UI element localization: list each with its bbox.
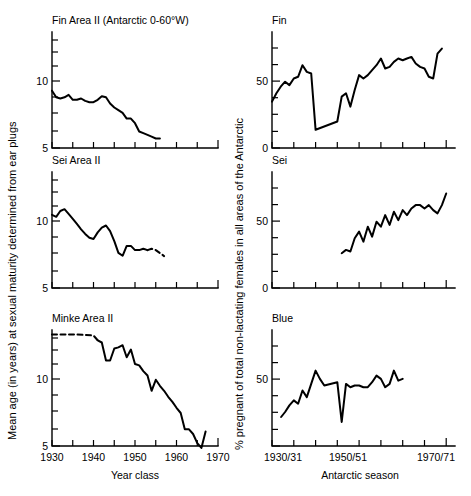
series-sei-age [52,209,148,256]
panel-minke-age-ytick-10: 10 [36,373,48,385]
panel-fin-pregnancy-title: Fin [272,14,287,26]
panel-blue-pregnancy-xtick-1950: 1950/51 [329,451,367,463]
panel-sei-age-x-ticks [52,280,218,288]
panel-sei-pregnancy: Sei 50 0 [256,154,455,294]
panel-blue-pregnancy-title: Blue [272,312,293,324]
panel-fin-pregnancy-ytick-0: 0 [262,142,268,154]
panel-sei-pregnancy-title: Sei [272,154,287,166]
panel-minke-age-title: Minke Area II [52,312,113,324]
right-y-axis-title: % pregnant of total non-lactating female… [233,117,245,450]
panel-minke-age-xtick-1950: 1950 [123,451,147,463]
series-fin-pregnancy [272,49,442,130]
left-y-axis-title: Mean age (in years) at sexual maturity d… [6,121,18,440]
panel-fin-pregnancy: Fin 50 0 [256,14,455,154]
series-sei-pregnancy [342,194,447,254]
panel-sei-pregnancy-x-ticks [272,280,446,288]
panel-fin-pregnancy-x-ticks [272,140,446,148]
panel-blue-pregnancy: Blue 50 [256,312,455,481]
series-blue-pregnancy [281,371,403,422]
left-x-axis-title: Year class [111,469,159,481]
panel-fin-age-ytick-5: 5 [42,142,48,154]
panel-fin-age-x-ticks [52,140,218,148]
panel-minke-age-xtick-1960: 1960 [165,451,189,463]
panel-blue-pregnancy-xtick-1970: 1970/71 [417,451,455,463]
panel-fin-age: Fin Area II (Antarctic 0-60°W) 10 5 [36,14,218,154]
panel-blue-pregnancy-y-ticks [272,346,280,446]
panel-sei-age-title: Sei Area II [52,154,100,166]
panel-minke-age-x-ticks [52,438,218,446]
panel-minke-age-xtick-1970: 1970 [206,451,230,463]
panel-blue-pregnancy-ytick-50: 50 [256,373,268,385]
panel-minke-age-xtick-1940: 1940 [82,451,106,463]
panel-minke-age-axes [52,330,218,446]
series-sei-age-dashed-tail [148,249,165,256]
panel-minke-age-y-ticks [52,338,60,446]
panel-fin-age-axes [52,32,218,148]
panel-sei-pregnancy-axes [272,172,455,288]
panel-minke-age: Minke Area II 10 5 [36,312,230,481]
series-minke-age [98,340,206,448]
panel-sei-pregnancy-y-ticks [272,188,280,288]
panel-sei-pregnancy-ytick-50: 50 [256,215,268,227]
panel-sei-age-ytick-10: 10 [36,215,48,227]
panel-sei-age-y-ticks [52,180,60,288]
panel-fin-pregnancy-ytick-50: 50 [256,75,268,87]
right-x-axis-title: Antarctic season [321,469,399,481]
series-fin-age [52,91,160,139]
figure-svg: Mean age (in years) at sexual maturity d… [0,0,471,496]
panel-blue-pregnancy-x-ticks [272,438,446,446]
series-minke-age-dashed-head [52,335,98,341]
panel-sei-age: Sei Area II 10 5 [36,154,218,294]
panel-sei-pregnancy-ytick-0: 0 [262,282,268,294]
panel-fin-age-ytick-10: 10 [36,75,48,87]
panel-blue-pregnancy-xtick-1930: 1930/31 [264,451,302,463]
panel-sei-age-ytick-5: 5 [42,282,48,294]
whale-maturity-pregnancy-figure: Mean age (in years) at sexual maturity d… [0,0,471,496]
panel-fin-pregnancy-axes [272,32,455,148]
panel-fin-age-title: Fin Area II (Antarctic 0-60°W) [52,14,189,26]
panel-minke-age-xtick-1930: 1930 [40,451,64,463]
panel-sei-age-axes [52,172,218,288]
